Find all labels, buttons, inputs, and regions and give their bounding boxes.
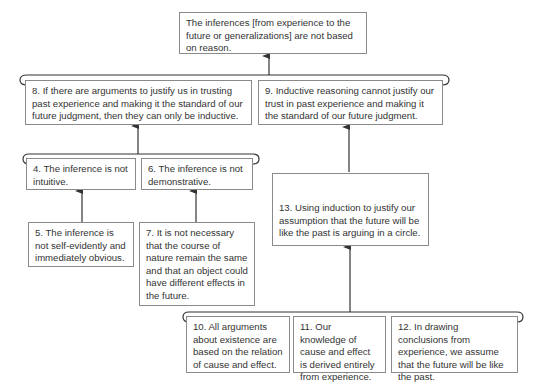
premise-11-box: 11. Our knowledge of cause and effect is…	[293, 316, 386, 373]
premise-9-box: 9. Inductive reasoning cannot justify ou…	[258, 80, 443, 125]
premise-7-box: 7. It is not necessary that the course o…	[139, 222, 255, 306]
premise-5-box: 5. The inference is not self-evidently a…	[28, 222, 134, 267]
premise-13-text: 13. Using induction to justify our assum…	[279, 202, 420, 238]
premise-4-text: 4. The inference is not intuitive.	[33, 163, 128, 187]
premise-11-text: 11. Our knowledge of cause and effect is…	[300, 321, 375, 382]
premise-8-text: 8. If there are arguments to justify us …	[32, 85, 243, 121]
premise-6-box: 6. The inference is not demonstrative.	[141, 158, 253, 190]
premise-4-box: 4. The inference is not intuitive.	[26, 158, 136, 190]
premise-6-text: 6. The inference is not demonstrative.	[148, 163, 243, 187]
premise-10-text: 10. All arguments about existence are ba…	[193, 321, 283, 370]
premise-10-box: 10. All arguments about existence are ba…	[186, 316, 290, 373]
premise-12-text: 12. In drawing conclusions from experien…	[398, 321, 504, 382]
premise-13-box: 13. Using induction to justify our assum…	[272, 173, 429, 246]
premise-5-text: 5. The inference is not self-evidently a…	[35, 227, 126, 263]
conclusion-box: The inferences [from experience to the f…	[179, 12, 367, 54]
premise-7-text: 7. It is not necessary that the course o…	[146, 227, 248, 301]
premise-9-text: 9. Inductive reasoning cannot justify ou…	[265, 85, 434, 121]
conclusion-text: The inferences [from experience to the f…	[186, 17, 353, 53]
premise-8-box: 8. If there are arguments to justify us …	[25, 80, 252, 125]
premise-12-box: 12. In drawing conclusions from experien…	[391, 316, 518, 373]
